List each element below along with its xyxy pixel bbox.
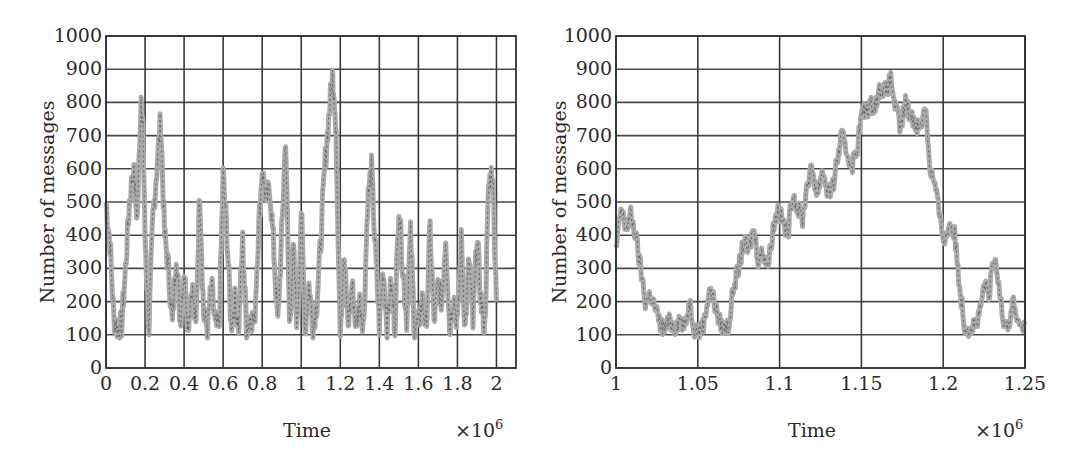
y-tick-label: 1000 — [564, 24, 612, 46]
x-tick-label: 1 — [610, 372, 622, 394]
y-axis-label: Number of messages — [548, 100, 570, 303]
y-tick-label: 700 — [66, 124, 102, 146]
x-axis-label: Time — [283, 419, 331, 441]
x-tick-label: 1.2 — [928, 372, 958, 394]
chart-panel-right: 01002003004005006007008009001000 11.051.… — [540, 0, 1080, 449]
y-tick-label: 800 — [66, 90, 102, 112]
x-tick-label: 1.2 — [325, 372, 355, 394]
data-series — [616, 72, 1025, 337]
x-tick-label: 1 — [295, 372, 307, 394]
x-tick-label: 1.05 — [677, 372, 719, 394]
y-tick-labels: 01002003004005006007008009001000 — [564, 24, 612, 378]
x-tick-labels: 00.20.40.60.811.21.41.61.82 — [100, 372, 503, 394]
y-tick-label: 300 — [576, 256, 612, 278]
y-tick-label: 300 — [66, 256, 102, 278]
x-tick-label: 1.6 — [403, 372, 433, 394]
y-tick-label: 800 — [576, 90, 612, 112]
chart-panel-left: 01002003004005006007008009001000 00.20.4… — [0, 0, 540, 449]
y-tick-label: 500 — [576, 190, 612, 212]
x-tick-label: 1.15 — [840, 372, 882, 394]
x-tick-label: 0.8 — [247, 372, 277, 394]
y-tick-label: 600 — [66, 157, 102, 179]
y-tick-label: 200 — [576, 290, 612, 312]
y-tick-label: 500 — [66, 190, 102, 212]
y-tick-label: 1000 — [54, 24, 102, 46]
y-tick-label: 600 — [576, 157, 612, 179]
y-tick-label: 900 — [66, 57, 102, 79]
y-tick-label: 100 — [66, 323, 102, 345]
series-band — [616, 72, 1025, 337]
y-tick-label: 400 — [66, 223, 102, 245]
x-multiplier: ×106 — [975, 417, 1023, 441]
chart-left: 01002003004005006007008009001000 00.20.4… — [0, 0, 540, 449]
x-tick-label: 1.25 — [1004, 372, 1046, 394]
y-tick-label: 700 — [576, 124, 612, 146]
y-tick-label: 200 — [66, 290, 102, 312]
y-tick-label: 400 — [576, 223, 612, 245]
y-tick-label: 100 — [576, 323, 612, 345]
x-tick-label: 1.4 — [364, 372, 394, 394]
x-tick-label: 0.6 — [208, 372, 238, 394]
y-tick-label: 900 — [576, 57, 612, 79]
chart-right: 01002003004005006007008009001000 11.051.… — [540, 0, 1080, 449]
x-tick-label: 2 — [490, 372, 502, 394]
x-tick-label: 1.8 — [442, 372, 472, 394]
y-tick-labels: 01002003004005006007008009001000 — [54, 24, 102, 378]
x-axis-label: Time — [788, 419, 836, 441]
x-tick-labels: 11.051.11.151.21.25 — [610, 372, 1046, 394]
x-tick-label: 0.4 — [169, 372, 199, 394]
x-multiplier: ×106 — [455, 417, 503, 441]
y-axis-label: Number of messages — [36, 100, 58, 303]
x-tick-label: 0 — [100, 372, 112, 394]
x-tick-label: 0.2 — [130, 372, 160, 394]
x-tick-label: 1.1 — [764, 372, 794, 394]
